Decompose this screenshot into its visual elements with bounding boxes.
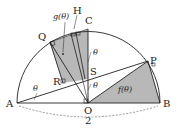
- label-q: Q: [38, 31, 46, 42]
- geometry-diagram: A B O C P Q R S H g(θ) f(θ) θ θ θ 2: [0, 0, 182, 129]
- label-a: A: [5, 98, 14, 109]
- pointer-h: [74, 15, 77, 29]
- label-f: f(θ): [117, 85, 132, 94]
- label-h: H: [73, 5, 82, 16]
- label-s: S: [90, 66, 97, 77]
- label-c: C: [85, 15, 93, 26]
- label-diameter-length: 2: [85, 115, 91, 126]
- label-theta-lower: θ: [93, 81, 98, 90]
- label-b: B: [163, 98, 170, 109]
- pointer-g-dot: [62, 53, 64, 55]
- label-theta-upper: θ: [93, 48, 98, 57]
- label-p: P: [150, 55, 157, 66]
- label-r: R: [53, 76, 61, 87]
- label-g: g(θ): [53, 12, 69, 21]
- label-theta-a: θ: [33, 84, 38, 93]
- shaded-triangle-f: [88, 61, 160, 103]
- shaded-region-g: [50, 29, 88, 83]
